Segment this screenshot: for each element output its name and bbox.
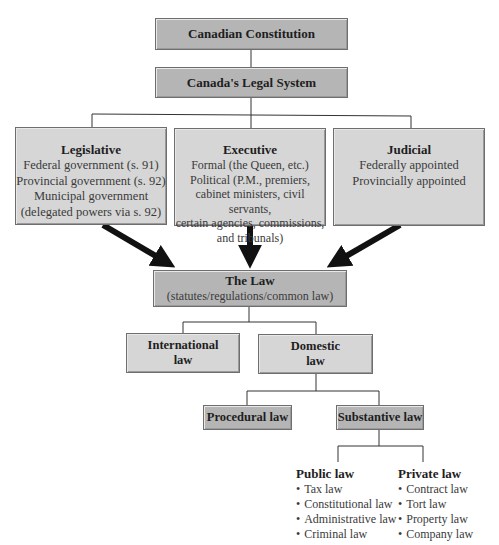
list-item: Administrative law (296, 512, 397, 527)
node-title: Judicial (334, 142, 484, 158)
node-line: Provincially appointed (334, 174, 484, 190)
list-heading: Public law (296, 466, 397, 482)
list-item: Contract law (398, 482, 473, 497)
node-legal-system: Canada's Legal System (155, 67, 348, 98)
list-item: Criminal law (296, 527, 397, 542)
node-title: Canada's Legal System (187, 75, 316, 91)
node-line: (delegated powers via s. 92) (16, 205, 166, 221)
node-procedural-law: Procedural law (203, 405, 292, 430)
arrow-judicial-to-law (336, 225, 400, 262)
node-line: Municipal government (16, 189, 166, 205)
public-law-list: Public law Tax law Constitutional law Ad… (296, 466, 397, 542)
node-title: Domestic (291, 339, 340, 354)
arrow-legislative-to-law (103, 225, 166, 262)
node-title: The Law (225, 273, 274, 289)
list-item: Property law (398, 512, 473, 527)
node-title: Substantive law (338, 410, 422, 425)
node-executive: Executive Formal (the Queen, etc.) Polit… (174, 128, 326, 226)
node-canadian-constitution: Canadian Constitution (155, 18, 348, 50)
connector-proc-subst (247, 391, 379, 405)
connector-public-private (338, 446, 423, 462)
node-line: Federal government (s. 91) (16, 158, 166, 174)
node-subtitle: (statutes/regulations/common law) (167, 289, 333, 305)
node-title: Procedural law (207, 410, 288, 425)
list-item: Constitutional law (296, 497, 397, 512)
node-title: law (306, 354, 325, 369)
node-line: certain agencies, commissions, (175, 216, 325, 231)
node-international-law: International law (126, 333, 240, 373)
node-judicial: Judicial Federally appointed Provinciall… (333, 128, 485, 226)
node-domestic-law: Domestic law (258, 334, 373, 374)
node-line: Federally appointed (334, 158, 484, 174)
node-title: Canadian Constitution (188, 26, 315, 42)
node-line: and tribunals) (175, 231, 325, 246)
node-substantive-law: Substantive law (336, 405, 424, 430)
node-line: cabinet ministers, civil servants, (175, 187, 325, 216)
node-line: Political (P.M., premiers, (175, 173, 325, 188)
node-line: Formal (the Queen, etc.) (175, 158, 325, 173)
node-title: International (148, 338, 219, 353)
list-item: Company law (398, 527, 473, 542)
private-law-list: Private law Contract law Tort law Proper… (398, 466, 473, 542)
node-title: Legislative (16, 142, 166, 158)
node-legislative: Legislative Federal government (s. 91) P… (15, 127, 167, 225)
list-item: Tort law (398, 497, 473, 512)
node-the-law: The Law (statutes/regulations/common law… (153, 270, 347, 307)
node-title: Executive (175, 142, 325, 158)
node-title: law (174, 353, 193, 368)
node-line: Provincial government (s. 92) (16, 174, 166, 190)
list-heading: Private law (398, 466, 473, 482)
list-item: Tax law (296, 482, 397, 497)
